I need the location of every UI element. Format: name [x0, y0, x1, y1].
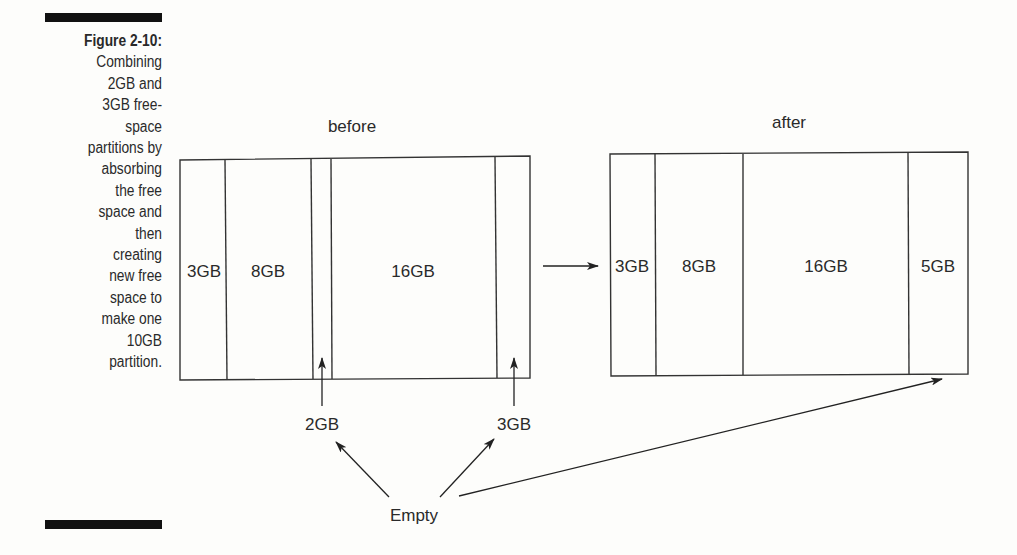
after-partition-5gb: 5GB: [921, 257, 955, 276]
before-partition-8gb: 8GB: [251, 262, 285, 281]
empty-label: Empty: [390, 506, 439, 525]
free-space-2gb-label: 2GB: [305, 415, 339, 434]
after-partition-16gb: 16GB: [804, 257, 847, 276]
arrow-empty-to-5gb-icon: [459, 379, 942, 496]
arrow-empty-to-3gb-icon: [440, 439, 494, 497]
arrow-empty-to-2gb-icon: [336, 442, 389, 497]
after-disk: [610, 152, 968, 376]
before-title: before: [328, 117, 376, 136]
before-disk: [180, 156, 530, 380]
partition-diagram: before 3GB 8GB 16GB after 3GB 8GB 16GB 5…: [0, 0, 1017, 555]
after-partition-8gb: 8GB: [682, 257, 716, 276]
after-partition-3gb: 3GB: [615, 257, 649, 276]
free-space-3gb-label: 3GB: [497, 415, 531, 434]
after-title: after: [772, 113, 806, 132]
before-partition-16gb: 16GB: [391, 262, 434, 281]
before-partition-3gb: 3GB: [187, 262, 221, 281]
